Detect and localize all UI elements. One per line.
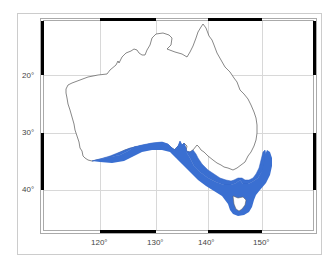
lat-label-30: 30°: [22, 128, 34, 137]
lon-label-140: 140°: [198, 238, 215, 247]
lon-label-130: 130°: [147, 238, 164, 247]
lat-label-40: 40°: [22, 185, 34, 194]
lon-label-150: 150°: [253, 238, 270, 247]
lon-label-120: 120°: [91, 238, 108, 247]
map-canvas: [0, 0, 336, 268]
lat-label-20: 20°: [22, 71, 34, 80]
